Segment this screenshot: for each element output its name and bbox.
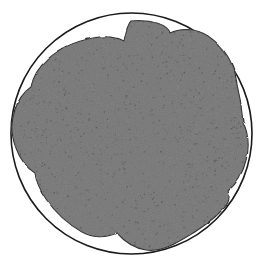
speckle-dot [166,126,167,127]
speckle-dot [153,114,154,115]
speckle-dot [149,98,150,99]
speckle-dot [203,81,204,82]
speckle-dot [149,53,150,54]
speckle-dot [122,43,123,44]
speckle-dot [45,129,46,130]
speckle-dot [185,189,186,190]
speckle-dot [107,147,108,148]
speckle-dot [20,153,21,154]
speckle-dot [186,171,187,172]
speckle-dot [42,162,43,163]
speckle-dot [105,176,106,177]
speckle-dot [67,196,68,197]
speckle-dot [184,31,185,32]
speckle-dot [66,141,67,142]
speckle-dot [181,130,182,131]
speckle-dot [222,146,223,147]
speckle-dot [75,145,76,146]
speckle-dot [163,107,164,108]
speckle-dot [154,202,155,203]
speckle-dot [84,133,85,134]
speckle-dot [235,88,236,89]
speckle-dot [19,108,20,109]
speckle-dot [53,70,54,71]
speckle-dot [33,97,34,98]
speckle-dot [62,190,63,191]
speckle-dot [40,151,41,152]
speckle-dot [56,144,57,145]
speckle-dot [80,141,81,142]
speckle-dot [107,173,108,174]
speckle-dot [86,47,87,48]
speckle-dot [107,37,108,38]
speckle-dot [216,112,217,113]
speckle-dot [17,105,18,106]
speckle-dot [190,187,191,188]
speckle-dot [127,68,128,69]
speckle-dot [135,207,136,208]
speckle-dot [143,181,144,182]
speckle-dot [184,108,185,109]
speckle-dot [228,97,229,98]
speckle-dot [221,157,222,158]
speckle-dot [63,119,64,120]
speckle-dot [201,65,202,66]
speckle-dot [202,73,203,74]
speckle-dot [150,114,151,115]
speckle-dot [223,78,224,79]
speckle-dot [37,95,38,96]
speckle-dot [175,104,176,105]
speckle-dot [200,151,201,152]
speckle-dot [195,89,196,90]
speckle-dot [106,108,107,109]
speckle-dot [225,168,226,169]
speckle-dot [102,140,103,141]
speckle-dot [27,129,28,130]
speckle-dot [140,136,141,137]
speckle-dot [122,201,123,202]
speckle-dot [143,211,144,212]
speckle-dot [115,134,116,135]
speckle-dot [176,139,177,140]
speckle-dot [104,214,105,215]
speckle-dot [171,83,172,84]
speckle-dot [44,131,45,132]
speckle-dot [96,164,97,165]
speckle-dot [200,115,201,116]
speckle-dot [42,165,43,166]
speckle-dot [52,155,53,156]
speckle-dot [34,122,35,123]
speckle-dot [203,201,204,202]
speckle-dot [205,213,206,214]
speckle-dot [71,155,72,156]
speckle-dot [226,181,227,182]
speckle-dot [186,101,187,102]
speckle-dot [61,163,62,164]
speckle-dot [88,199,89,200]
speckle-dot [150,220,151,221]
speckle-dot [236,128,237,129]
speckle-dot [193,122,194,123]
speckle-dot [79,194,80,195]
speckle-dot [81,228,82,229]
speckle-dot [223,139,224,140]
speckle-dot [219,77,220,78]
speckle-dot [125,108,126,109]
speckle-dot [159,188,160,189]
speckle-dot [20,135,21,136]
speckle-dot [107,229,108,230]
speckle-dot [118,135,119,136]
speckle-dot [225,80,226,81]
speckle-dot [189,147,190,148]
speckle-dot [80,69,81,70]
speckle-dot [173,75,174,76]
speckle-dot [57,140,58,141]
speckle-dot [158,215,159,216]
speckle-dot [53,111,54,112]
speckle-dot [65,125,66,126]
speckle-dot [162,219,163,220]
speckle-dot [146,242,147,243]
speckle-dot [39,102,40,103]
speckle-dot [35,131,36,132]
speckle-dot [187,104,188,105]
